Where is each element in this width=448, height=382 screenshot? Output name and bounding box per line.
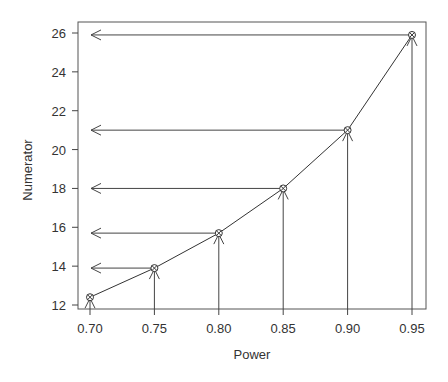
- data-point-marker-icon: [409, 31, 416, 38]
- y-tick-label: 16: [52, 220, 66, 235]
- data-point-marker-icon: [215, 230, 222, 237]
- y-tick-label: 12: [52, 298, 66, 313]
- y-axis: 1214161820222426: [52, 26, 78, 313]
- data-series: [87, 31, 416, 300]
- x-tick-label: 0.80: [206, 321, 231, 336]
- y-tick-label: 22: [52, 104, 66, 119]
- y-axis-label: Numerator: [20, 139, 35, 201]
- data-point-marker-icon: [87, 294, 94, 301]
- plot-frame: [78, 22, 426, 309]
- annotation-arrows: [90, 35, 412, 309]
- x-tick-label: 0.90: [335, 321, 360, 336]
- x-axis: 0.700.750.800.850.900.95: [77, 309, 424, 336]
- x-tick-label: 0.95: [399, 321, 424, 336]
- x-tick-label: 0.75: [142, 321, 167, 336]
- y-tick-label: 18: [52, 181, 66, 196]
- y-tick-label: 20: [52, 143, 66, 158]
- x-axis-label: Power: [234, 347, 272, 362]
- y-tick-label: 24: [52, 65, 66, 80]
- data-point-marker-icon: [344, 127, 351, 134]
- y-tick-label: 14: [52, 259, 66, 274]
- power-numerator-chart: 1214161820222426 0.700.750.800.850.900.9…: [0, 0, 448, 382]
- data-point-marker-icon: [280, 185, 287, 192]
- x-tick-label: 0.85: [271, 321, 296, 336]
- x-tick-label: 0.70: [77, 321, 102, 336]
- series-line: [90, 35, 412, 297]
- data-point-marker-icon: [151, 265, 158, 272]
- y-tick-label: 26: [52, 26, 66, 41]
